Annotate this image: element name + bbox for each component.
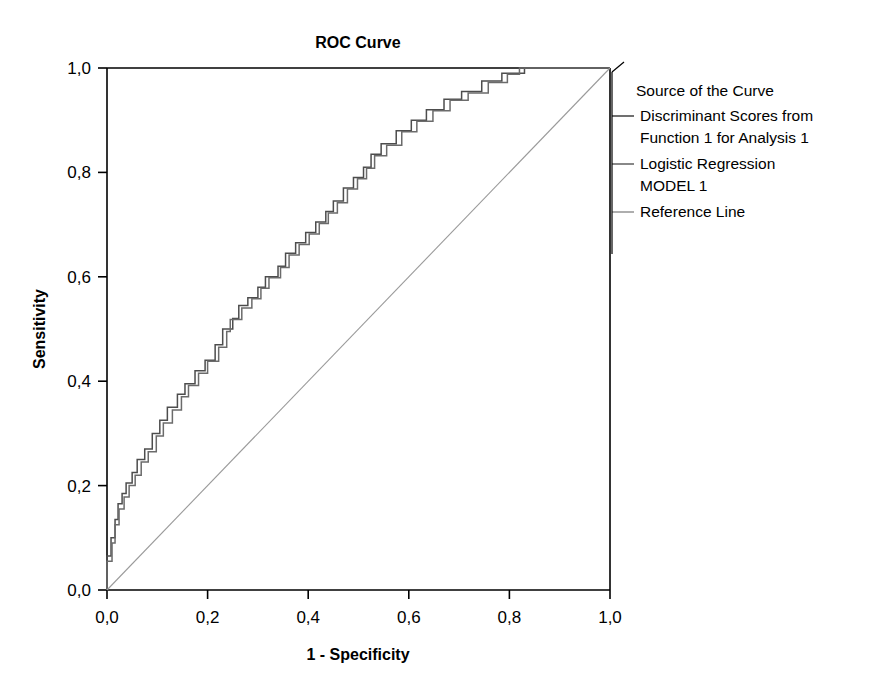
x-tick-label: 0,0 — [95, 608, 119, 627]
y-tick-label: 0,6 — [67, 268, 91, 287]
x-tick-label: 0,6 — [397, 608, 421, 627]
legend-bracket — [612, 62, 634, 254]
x-axis-ticks: 0,00,20,40,60,81,0 — [95, 590, 622, 627]
legend-entry-label: Function 1 for Analysis 1 — [640, 129, 809, 146]
y-axis-title: Sensitivity — [31, 289, 48, 369]
y-axis-ticks: 0,00,20,40,60,81,0 — [67, 59, 107, 600]
y-tick-label: 1,0 — [67, 59, 91, 78]
y-tick-label: 0,0 — [67, 581, 91, 600]
x-tick-label: 1,0 — [598, 608, 622, 627]
x-tick-label: 0,8 — [498, 608, 522, 627]
legend-entry-label: Logistic Regression — [640, 155, 775, 172]
y-tick-label: 0,4 — [67, 372, 91, 391]
legend-bracket-hook — [612, 62, 624, 72]
x-tick-label: 0,4 — [296, 608, 320, 627]
x-axis-title: 1 - Specificity — [306, 646, 409, 663]
y-tick-label: 0,8 — [67, 163, 91, 182]
legend-entry-label: Reference Line — [640, 203, 745, 220]
series-path-2 — [107, 68, 610, 590]
y-tick-label: 0,2 — [67, 477, 91, 496]
chart-title: ROC Curve — [315, 34, 400, 51]
roc-curve-figure: ROC Curve 0,00,20,40,60,81,0 0,00,20,40,… — [0, 0, 896, 685]
legend-entry-label: MODEL 1 — [640, 177, 707, 194]
legend-entry-label: Discriminant Scores from — [640, 107, 813, 124]
chart-legend: Source of the Curve Discriminant Scores … — [612, 62, 813, 254]
series-paths — [107, 68, 610, 590]
legend-title: Source of the Curve — [636, 82, 774, 99]
x-tick-label: 0,2 — [196, 608, 220, 627]
roc-chart-svg: ROC Curve 0,00,20,40,60,81,0 0,00,20,40,… — [0, 0, 896, 685]
legend-entries: Discriminant Scores fromFunction 1 for A… — [640, 107, 813, 220]
